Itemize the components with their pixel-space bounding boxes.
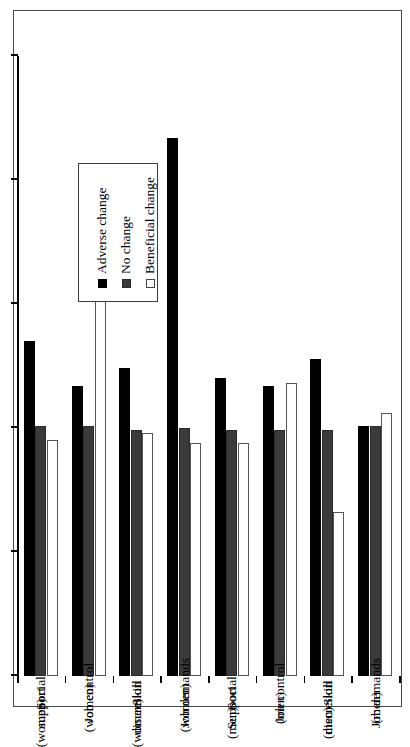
plot-area xyxy=(17,14,399,704)
category-tick xyxy=(17,676,19,683)
legend-item: No change xyxy=(119,216,133,288)
category-label: (women) xyxy=(82,683,97,732)
category-tick xyxy=(351,676,353,683)
bar xyxy=(333,512,344,676)
bar xyxy=(321,430,332,676)
figure-frame: Socialsupport(women)Job control(women)Sk… xyxy=(13,10,402,707)
legend-item: Beneficial change xyxy=(143,177,157,288)
legend-label: No change xyxy=(118,216,133,274)
category-tick xyxy=(399,676,401,683)
category-tick xyxy=(160,676,162,683)
bar xyxy=(130,430,141,676)
legend-swatch-adverse xyxy=(98,279,107,288)
bar xyxy=(119,368,130,676)
legend-label: Adverse change xyxy=(94,187,109,274)
bar xyxy=(226,430,237,676)
bar xyxy=(178,428,189,676)
bar xyxy=(310,358,321,675)
category-tick xyxy=(64,676,66,683)
category-label: (men) xyxy=(368,691,383,723)
bar xyxy=(142,432,153,675)
category-tick xyxy=(255,676,257,683)
bar xyxy=(262,385,273,675)
bar xyxy=(190,442,201,675)
rotated-plot-wrapper xyxy=(17,14,399,704)
value-tick xyxy=(11,550,18,552)
value-tick xyxy=(11,54,18,56)
category-label: (men) xyxy=(273,691,288,723)
bar xyxy=(46,440,57,676)
bar xyxy=(237,442,248,675)
bar xyxy=(94,239,105,675)
category-tick xyxy=(112,676,114,683)
category-label: (women) xyxy=(177,683,192,732)
bar xyxy=(23,341,34,676)
value-tick xyxy=(11,178,18,180)
chart-legend: Adverse changeNo changeBeneficial change xyxy=(78,163,158,302)
value-tick xyxy=(11,302,18,304)
bar xyxy=(83,425,94,675)
legend-swatch-beneficial xyxy=(146,279,155,288)
value-axis-line xyxy=(17,56,19,676)
category-label: (women) xyxy=(34,698,49,747)
bar xyxy=(214,378,225,676)
legend-label: Beneficial change xyxy=(142,177,157,274)
bar xyxy=(167,137,178,675)
category-tick xyxy=(303,676,305,683)
bar xyxy=(285,383,296,676)
value-tick xyxy=(11,426,18,428)
category-label: (men) xyxy=(225,706,240,738)
category-label: (men) xyxy=(321,706,336,738)
bar xyxy=(274,430,285,676)
legend-item: Adverse change xyxy=(95,187,109,288)
legend-swatch-nochange xyxy=(122,279,131,288)
bar xyxy=(35,425,46,675)
category-label: (women) xyxy=(130,698,145,747)
bar xyxy=(71,385,82,675)
category-tick xyxy=(208,676,210,683)
bar xyxy=(381,413,392,676)
bar xyxy=(358,425,369,675)
bar xyxy=(369,425,380,675)
